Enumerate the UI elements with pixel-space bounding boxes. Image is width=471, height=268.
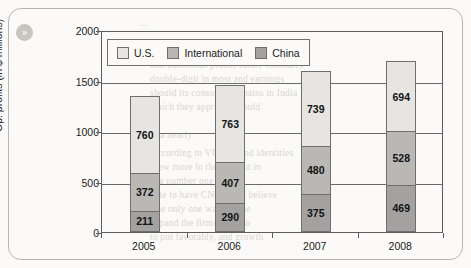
x-axis-tick-label: 2007: [285, 240, 345, 252]
y-axis-tick-label: 1500: [59, 76, 99, 88]
x-axis-tick-label: 2006: [199, 240, 259, 252]
bar-segment[interactable]: 372: [130, 173, 160, 211]
x-axis-tick-mark: [187, 233, 188, 238]
x-axis-tick-mark: [272, 233, 273, 238]
bar-value-label: 375: [302, 207, 330, 219]
legend-swatch: [117, 47, 129, 59]
y-axis-tick-label: 1000: [59, 126, 99, 138]
bar-segment[interactable]: 528: [386, 131, 416, 184]
bar-value-label: 290: [216, 211, 244, 223]
bar-value-label: 528: [387, 152, 415, 164]
x-axis-tick-mark: [358, 233, 359, 238]
x-axis-tick-label: 2005: [114, 240, 174, 252]
bar-value-label: 760: [131, 129, 159, 141]
bar-value-label: 480: [302, 164, 330, 176]
page-background: ...when VUBI needs to consider are theth…: [0, 0, 471, 268]
stacked-bar[interactable]: 760372211: [130, 96, 160, 232]
bar-segment[interactable]: 211: [130, 211, 160, 232]
y-axis-label: Op. profits (in $ millions): [0, 19, 4, 132]
stacked-bar[interactable]: 763407290: [215, 85, 245, 232]
bar-segment[interactable]: 480: [301, 146, 331, 194]
legend-item[interactable]: U.S.: [117, 47, 154, 59]
bar-segment[interactable]: 407: [215, 162, 245, 203]
x-axis-tick-mark: [101, 233, 102, 238]
bar-value-label: 407: [216, 177, 244, 189]
bar-segment[interactable]: 763: [215, 85, 245, 162]
bar-segment[interactable]: 694: [386, 61, 416, 131]
legend-label: U.S.: [134, 47, 154, 59]
bar-segment[interactable]: 469: [386, 185, 416, 232]
bar-value-label: 372: [131, 186, 159, 198]
legend-swatch: [255, 47, 267, 59]
y-axis-tick-label: 0: [59, 227, 99, 239]
bar-value-label: 469: [387, 202, 415, 214]
stacked-bar-chart: Op. profits (in $ millions) 050010001500…: [0, 0, 471, 268]
x-axis-tick-label: 2008: [370, 240, 430, 252]
legend-swatch: [167, 47, 179, 59]
x-axis-tick-mark: [443, 233, 444, 238]
y-axis-tick-label: 2000: [59, 25, 99, 37]
chart-legend: U.S.InternationalChina: [107, 39, 310, 66]
bar-value-label: 694: [387, 91, 415, 103]
legend-item[interactable]: China: [255, 47, 299, 59]
y-axis-tick-label: 500: [59, 177, 99, 189]
legend-item[interactable]: International: [167, 47, 242, 59]
stacked-bar[interactable]: 694528469: [386, 61, 416, 232]
bar-segment[interactable]: 375: [301, 194, 331, 232]
bar-value-label: 211: [131, 215, 159, 227]
bar-value-label: 739: [302, 103, 330, 115]
legend-label: China: [272, 47, 299, 59]
bar-segment[interactable]: 290: [215, 203, 245, 232]
legend-label: International: [184, 47, 242, 59]
bar-value-label: 763: [216, 118, 244, 130]
bar-segment[interactable]: 739: [301, 71, 331, 146]
stacked-bar[interactable]: 739480375: [301, 71, 331, 232]
bar-segment[interactable]: 760: [130, 96, 160, 173]
